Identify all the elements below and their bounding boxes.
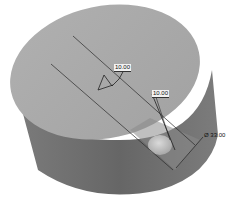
diameter-dimension-label: Ø 33.00 [203,132,226,139]
depth-dimension-label: 10.00 [152,90,169,98]
drilled-hole [148,135,172,155]
angle-dimension-label: 10.00 [114,64,131,72]
cad-scene [0,0,229,198]
